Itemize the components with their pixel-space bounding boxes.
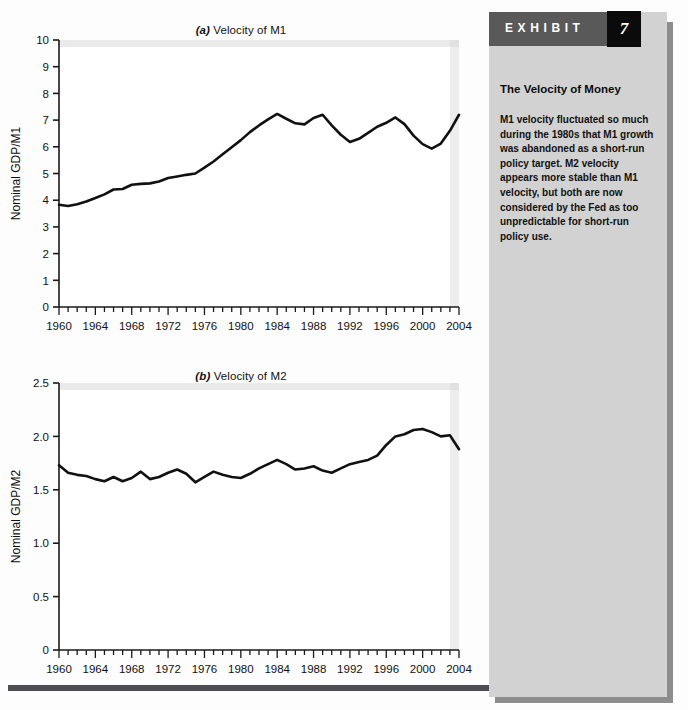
svg-text:1984: 1984 — [264, 663, 290, 675]
svg-text:1984: 1984 — [264, 320, 290, 332]
svg-text:1: 1 — [43, 275, 49, 287]
svg-text:1964: 1964 — [83, 663, 109, 675]
svg-text:2004: 2004 — [446, 663, 472, 675]
svg-text:1.0: 1.0 — [33, 537, 49, 549]
sidebar-heading: The Velocity of Money — [500, 83, 660, 95]
svg-text:3: 3 — [43, 221, 49, 233]
chart-panel-velocity-m2: (b) Velocity of M2 00.51.01.52.02.519601… — [0, 350, 482, 690]
svg-text:9: 9 — [43, 61, 49, 73]
svg-text:1.5: 1.5 — [33, 484, 49, 496]
svg-text:2.0: 2.0 — [33, 431, 49, 443]
plot-area-m1: 0123456789101960196419681972197619801984… — [0, 0, 482, 350]
svg-text:8: 8 — [43, 88, 49, 100]
svg-text:0: 0 — [43, 644, 49, 656]
svg-text:1992: 1992 — [337, 663, 363, 675]
svg-text:1964: 1964 — [83, 320, 109, 332]
exhibit-number-box: 7 — [607, 11, 641, 47]
svg-text:1960: 1960 — [46, 663, 72, 675]
sidebar-shadow-bottom — [495, 697, 673, 703]
svg-text:1996: 1996 — [373, 320, 399, 332]
svg-text:7: 7 — [43, 114, 49, 126]
sidebar-shadow-right — [667, 22, 673, 697]
svg-text:1968: 1968 — [119, 663, 145, 675]
exhibit-page: (a) Velocity of M1 012345678910196019641… — [0, 0, 688, 710]
svg-text:5: 5 — [43, 168, 49, 180]
sidebar-body-text: M1 velocity fluctuated so much during th… — [500, 113, 657, 244]
svg-text:1960: 1960 — [46, 320, 72, 332]
svg-text:1988: 1988 — [301, 663, 327, 675]
svg-text:4: 4 — [43, 194, 50, 206]
svg-text:2.5: 2.5 — [33, 377, 49, 389]
svg-text:2000: 2000 — [410, 663, 436, 675]
svg-text:2004: 2004 — [446, 320, 472, 332]
svg-text:Nominal GDP/M2: Nominal GDP/M2 — [9, 469, 23, 563]
svg-text:1972: 1972 — [155, 663, 181, 675]
svg-text:0: 0 — [43, 301, 49, 313]
svg-text:1992: 1992 — [337, 320, 363, 332]
svg-text:1988: 1988 — [301, 320, 327, 332]
svg-text:2: 2 — [43, 248, 49, 260]
svg-text:10: 10 — [36, 34, 49, 46]
svg-text:1972: 1972 — [155, 320, 181, 332]
plot-area-m2: 00.51.01.52.02.5196019641968197219761980… — [0, 350, 482, 690]
svg-text:Nominal GDP/M1: Nominal GDP/M1 — [9, 126, 23, 220]
svg-text:1980: 1980 — [228, 320, 254, 332]
exhibit-band-label: EXHIBIT — [505, 21, 585, 35]
svg-text:1976: 1976 — [192, 663, 218, 675]
svg-text:6: 6 — [43, 141, 49, 153]
svg-text:0.5: 0.5 — [33, 591, 49, 603]
svg-text:1996: 1996 — [373, 663, 399, 675]
exhibit-number: 7 — [607, 19, 641, 39]
svg-text:2000: 2000 — [410, 320, 436, 332]
svg-text:1980: 1980 — [228, 663, 254, 675]
svg-text:1976: 1976 — [192, 320, 218, 332]
chart-panel-velocity-m1: (a) Velocity of M1 012345678910196019641… — [0, 0, 482, 350]
svg-text:1968: 1968 — [119, 320, 145, 332]
bottom-rule-divider — [8, 685, 492, 691]
